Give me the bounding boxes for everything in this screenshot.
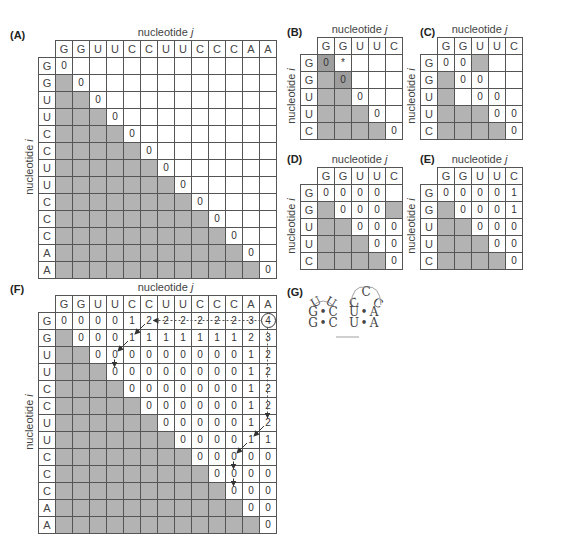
matrix-cell	[73, 194, 90, 211]
matrix-cell: 0	[175, 432, 192, 449]
matrix-cell	[73, 517, 90, 534]
row-header: U	[39, 92, 56, 109]
matrix-cell	[124, 75, 141, 92]
matrix-cell	[56, 398, 73, 415]
matrix-cell	[90, 381, 107, 398]
matrix-cell	[318, 253, 335, 270]
row-header: C	[39, 126, 56, 143]
matrix-cell	[73, 483, 90, 500]
matrix-cell	[107, 211, 124, 228]
matrix-cell	[141, 75, 158, 92]
column-header: U	[489, 168, 506, 185]
column-header: C	[141, 41, 158, 58]
matrix-cell	[90, 228, 107, 245]
matrix-cell	[175, 262, 192, 279]
matrix-cell	[438, 236, 455, 253]
matrix-cell	[124, 432, 141, 449]
column-header: C	[506, 168, 523, 185]
matrix-cell: 0	[107, 330, 124, 347]
matrix-cell: 0	[141, 143, 158, 160]
matrix-cell: 0	[209, 211, 226, 228]
matrix-cell: 0	[192, 347, 209, 364]
matrix-cell	[73, 415, 90, 432]
matrix-cell: 1	[209, 330, 226, 347]
panel-g-label: (G)	[287, 286, 303, 298]
column-header: U	[158, 41, 175, 58]
matrix-cell	[90, 58, 107, 75]
matrix-cell	[243, 262, 260, 279]
matrix-cell: 0	[107, 313, 124, 330]
row-header: G	[421, 72, 438, 89]
matrix-cell	[243, 75, 260, 92]
matrix-cell: 0	[226, 398, 243, 415]
axis-label-j: nucleotide j	[55, 26, 276, 38]
matrix-cell	[124, 160, 141, 177]
matrix-cell	[438, 253, 455, 270]
matrix-cell: 0	[192, 381, 209, 398]
column-header: C	[386, 168, 403, 185]
matrix-cell: 1	[226, 330, 243, 347]
matrix-cell	[124, 517, 141, 534]
matrix-cell: 1	[124, 330, 141, 347]
row-header: U	[421, 219, 438, 236]
matrix-cell	[124, 109, 141, 126]
dp-matrix: GGUUCG00G00U00U00C0	[420, 37, 523, 140]
matrix-cell: 1	[124, 313, 141, 330]
matrix-cell: 0	[335, 185, 352, 202]
matrix-cell: 1	[175, 330, 192, 347]
column-header: U	[489, 38, 506, 55]
matrix-cell	[141, 500, 158, 517]
matrix-cell	[209, 245, 226, 262]
matrix-cell: 0	[107, 109, 124, 126]
svg-text:•: •	[360, 316, 367, 330]
axis-label-i: nucleotide i	[22, 311, 34, 532]
row-header: G	[39, 330, 56, 347]
row-header: C	[301, 253, 318, 270]
matrix-cell	[209, 160, 226, 177]
matrix-cell	[260, 177, 277, 194]
row-header: C	[39, 449, 56, 466]
matrix-cell	[158, 194, 175, 211]
column-header: C	[386, 38, 403, 55]
matrix-cell: 1	[243, 415, 260, 432]
matrix-cell	[141, 194, 158, 211]
matrix-cell	[352, 106, 369, 123]
matrix-cell: 0	[506, 106, 523, 123]
matrix-cell: 0	[56, 58, 73, 75]
matrix-cell	[175, 483, 192, 500]
matrix-cell: 0	[455, 185, 472, 202]
matrix-cell: 1	[192, 330, 209, 347]
matrix-cell: 0	[209, 449, 226, 466]
matrix-cell	[192, 109, 209, 126]
row-header: G	[301, 202, 318, 219]
row-header: C	[39, 211, 56, 228]
matrix-cell	[56, 194, 73, 211]
matrix-cell: 0	[107, 347, 124, 364]
matrix-cell	[73, 398, 90, 415]
matrix-cell: 0	[260, 517, 277, 534]
matrix-cell	[260, 75, 277, 92]
matrix-cell	[455, 236, 472, 253]
matrix-cell	[386, 202, 403, 219]
matrix-cell: 0	[175, 177, 192, 194]
matrix-cell	[209, 177, 226, 194]
matrix-cell: 0	[175, 415, 192, 432]
matrix-cell: 1	[260, 432, 277, 449]
matrix-cell	[124, 415, 141, 432]
matrix-cell	[158, 262, 175, 279]
matrix-cell	[260, 194, 277, 211]
matrix-cell	[56, 330, 73, 347]
circled-score: 4	[261, 313, 276, 328]
matrix-cell: 0	[352, 202, 369, 219]
matrix-cell: 0	[226, 347, 243, 364]
matrix-cell: 0	[489, 106, 506, 123]
column-header: C	[192, 41, 209, 58]
matrix-cell	[489, 55, 506, 72]
matrix-cell: 0	[386, 236, 403, 253]
matrix-cell	[73, 177, 90, 194]
matrix-cell	[352, 72, 369, 89]
matrix-cell: 2	[260, 415, 277, 432]
matrix-cell	[226, 500, 243, 517]
dp-matrix: GGUUCCUUCCCAAG0000122222234G000111111123…	[38, 295, 277, 534]
matrix-cell: 0	[260, 483, 277, 500]
